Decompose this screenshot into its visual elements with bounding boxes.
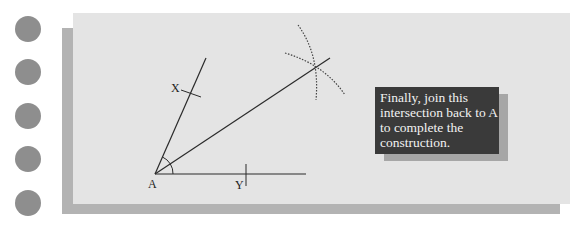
label-y: Y	[235, 178, 244, 192]
bisector-line	[155, 58, 330, 174]
label-x: X	[171, 81, 180, 95]
note-line-3: to complete the	[380, 120, 499, 135]
label-a: A	[148, 177, 157, 191]
instruction-note: Finally, join this intersection back to …	[375, 87, 499, 154]
note-line-4: construction.	[380, 135, 499, 150]
note-line-2: intersection back to A	[380, 105, 499, 120]
construction-arc-diagonal	[285, 53, 345, 95]
note-line-1: Finally, join this	[380, 90, 499, 105]
